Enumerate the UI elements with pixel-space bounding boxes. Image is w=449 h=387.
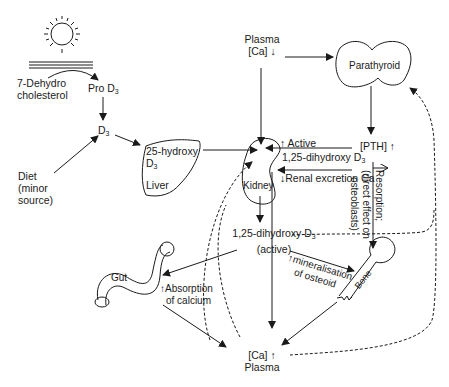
liver-product-label: 25-hydroxy D3 (146, 145, 198, 173)
liver-product-line-1: 25-hydroxy (146, 145, 198, 157)
dihydroxy-label: 1,25-dihydroxy D3 (282, 151, 365, 167)
absorption-label: ↑Absorption of calcium (160, 283, 213, 307)
plasma-high-line-2: Plasma (240, 361, 284, 373)
active-d3-line-2: (active) (224, 243, 324, 255)
osteoblasts-label: osteoblasts) (348, 177, 360, 231)
parathyroid-label: Parathyroid (349, 60, 400, 72)
direct-effect-label: (direct effect on (360, 170, 372, 239)
plasma-low-label: Plasma [Ca] ↓ (240, 33, 284, 57)
subscript: 3 (106, 130, 110, 137)
resorption-label: Resorption; (373, 170, 385, 221)
diet-to-d3-arrow (54, 136, 98, 173)
dehydrocholesterol-label: 7-Dehydro cholesterol (17, 77, 68, 101)
subscript: 3 (115, 88, 119, 95)
d3-to-liver-arrow (115, 135, 140, 145)
liver-product-line-2: D3 (146, 157, 198, 173)
active-d3-label: 1,25-dihydroxy D3 (active) (224, 227, 324, 255)
skin-lines (29, 62, 93, 68)
gut-to-plasma-arrow (163, 305, 226, 347)
absorption-line-2: of calcium (160, 295, 213, 307)
liver-label: Liver (146, 179, 169, 191)
subscript: 3 (154, 163, 158, 170)
liver-d-text: D (146, 157, 154, 169)
d3-label: D3 (98, 124, 110, 140)
pro-d3-label: Pro D3 (88, 82, 119, 98)
gut-label: Gut (111, 272, 127, 284)
pro-d3-text: Pro D (88, 82, 115, 94)
subscript: 3 (312, 233, 316, 240)
diet-line-3: source) (18, 194, 53, 206)
d3-text: D (98, 124, 106, 136)
diet-line-2: (minor (18, 182, 53, 194)
plasma-low-line-1: Plasma (240, 33, 284, 45)
plasma-high-label: [Ca] ↑ Plasma (240, 349, 284, 373)
diet-line-1: Diet (18, 170, 53, 182)
dihydroxy-text: 1,25-dihydroxy D (282, 151, 361, 163)
sun-icon (44, 16, 80, 53)
bone-to-plasma-arrow (282, 302, 337, 345)
subscript: 3 (361, 157, 365, 164)
absorption-line-1: ↑Absorption (160, 283, 213, 295)
plasma-low-line-2: [Ca] ↓ (240, 45, 284, 57)
diet-label: Diet (minor source) (18, 170, 53, 206)
active-label: ↑ Active (280, 137, 316, 149)
active-d3-text: 1,25-dihydroxy D (232, 227, 311, 239)
dehydro-line-1: 7-Dehydro (17, 77, 68, 89)
plasma-high-line-1: [Ca] ↑ (240, 349, 284, 361)
active-d3-line-1: 1,25-dihydroxy D3 (224, 227, 324, 243)
dehydro-line-2: cholesterol (17, 89, 68, 101)
kidney-label: Kidney (243, 180, 274, 192)
